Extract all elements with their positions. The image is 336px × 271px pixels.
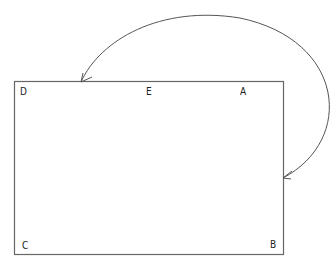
curved-arrow xyxy=(81,15,329,178)
rectangle xyxy=(15,82,284,255)
label-e: E xyxy=(146,86,152,97)
label-d: D xyxy=(20,86,27,97)
arrowhead-right-icon xyxy=(283,171,292,179)
label-b: B xyxy=(270,239,276,250)
label-c: C xyxy=(22,240,28,251)
label-a: A xyxy=(240,86,247,97)
diagram-canvas: A B C D E xyxy=(0,0,336,271)
